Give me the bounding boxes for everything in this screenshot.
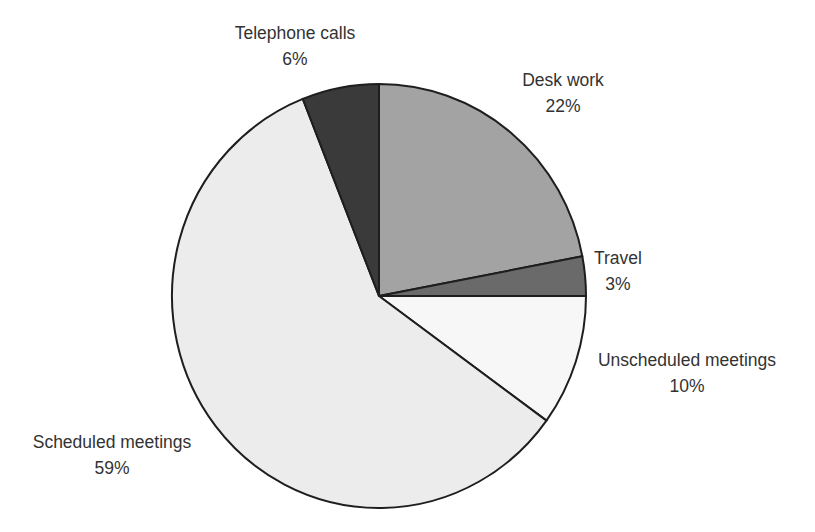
data-label-percent: 10% [669, 376, 704, 396]
pie-chart: Desk work22%Travel3%Unscheduled meetings… [0, 0, 815, 532]
data-label-name: Desk work [522, 70, 604, 90]
data-label-percent: 6% [282, 49, 307, 69]
data-label-name: Travel [594, 248, 642, 268]
data-label-percent: 22% [545, 96, 580, 116]
data-label-unscheduled-meetings: Unscheduled meetings10% [598, 350, 776, 396]
data-label-telephone-calls: Telephone calls6% [235, 23, 356, 69]
data-label-name: Telephone calls [235, 23, 356, 43]
data-label-percent: 59% [94, 458, 129, 478]
data-label-desk-work: Desk work22% [522, 70, 604, 116]
data-label-percent: 3% [605, 274, 630, 294]
data-label-name: Unscheduled meetings [598, 350, 776, 370]
data-label-travel: Travel3% [594, 248, 642, 294]
data-label-name: Scheduled meetings [33, 432, 192, 452]
data-label-scheduled-meetings: Scheduled meetings59% [33, 432, 192, 478]
pie-slices [172, 84, 586, 508]
